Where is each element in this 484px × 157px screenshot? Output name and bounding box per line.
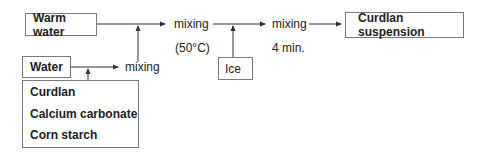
water-label: Water: [30, 60, 63, 74]
mixing-step-3-condition: 4 min.: [272, 41, 305, 55]
warm-water-label: Warm water: [33, 11, 96, 39]
mixing-step-3: mixing: [272, 17, 307, 31]
mixing-step-2: mixing: [174, 17, 209, 31]
ice-label: Ice: [225, 62, 241, 76]
ingredient-curdlan: Curdlan: [30, 85, 75, 99]
dry-ingredients-box: Curdlan Calcium carbonate Corn starch: [22, 80, 139, 148]
ice-box: Ice: [218, 57, 253, 80]
mixing-step-1: mixing: [125, 60, 160, 74]
output-label: Curdlan suspension: [358, 11, 463, 39]
ingredient-corn-starch: Corn starch: [30, 128, 97, 142]
ingredient-calcium-carbonate: Calcium carbonate: [30, 107, 137, 121]
mixing-step-2-condition: (50°C): [175, 41, 210, 55]
warm-water-box: Warm water: [25, 13, 97, 36]
water-box: Water: [22, 56, 71, 78]
curdlan-suspension-box: Curdlan suspension: [345, 12, 464, 38]
